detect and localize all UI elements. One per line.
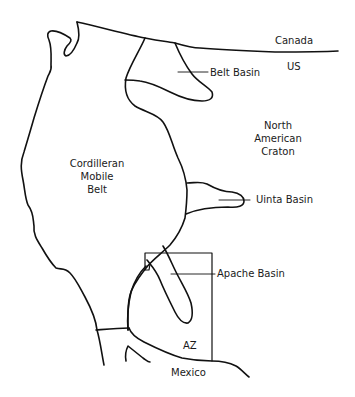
cordilleran-label-line-1: Cordilleran: [62, 157, 132, 170]
craton-label-line-3: Craton: [243, 145, 313, 158]
apache-basin-label: Apache Basin: [217, 267, 285, 280]
mexico-label: Mexico: [171, 366, 206, 379]
uinta-basin-label: Uinta Basin: [256, 193, 313, 206]
cordilleran-label-line-2: Mobile: [62, 170, 132, 183]
az-label: AZ: [183, 339, 197, 352]
cordilleran-craton-boundary: [125, 38, 187, 330]
state-line: [96, 328, 129, 330]
belt-basin-label: Belt Basin: [210, 66, 260, 79]
cordilleran-label-line-3: Belt: [62, 183, 132, 196]
cordilleran-mobile-belt-label: Cordilleran Mobile Belt: [62, 157, 132, 196]
apache-basin-outline: [147, 246, 192, 323]
us-label: US: [287, 60, 301, 73]
north-american-craton-label: North American Craton: [243, 119, 313, 158]
uinta-basin-outline: [186, 182, 244, 214]
craton-label-line-2: American: [243, 132, 313, 145]
craton-label-line-1: North: [243, 119, 313, 132]
canada-label: Canada: [275, 34, 313, 47]
arizona-box: [145, 253, 212, 361]
baja-coastline: [126, 346, 150, 362]
western-boundary-line: [128, 266, 146, 330]
